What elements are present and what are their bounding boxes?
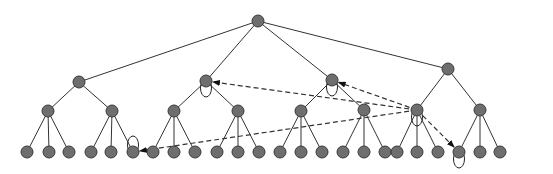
tree-node xyxy=(379,146,391,158)
tree-edge xyxy=(417,110,438,152)
tree-edge xyxy=(217,111,238,152)
tree-node xyxy=(391,146,403,158)
tree-edge xyxy=(343,110,364,152)
tree-node xyxy=(105,146,117,158)
tree-edge xyxy=(79,82,112,111)
tree-node xyxy=(168,146,180,158)
tree-node xyxy=(252,15,264,27)
tree-node xyxy=(147,146,159,158)
tree-node xyxy=(474,104,486,116)
tree-node xyxy=(253,146,265,158)
tree-node xyxy=(337,146,349,158)
tree-node xyxy=(411,146,423,158)
tree-edge xyxy=(448,69,480,110)
tree-node xyxy=(127,146,139,158)
tree-node xyxy=(232,105,244,117)
tree-edge xyxy=(301,111,322,152)
tree-node xyxy=(295,146,307,158)
tree-diagram xyxy=(0,0,553,174)
tree-nodes xyxy=(21,15,506,158)
tree-edge xyxy=(258,21,448,69)
tree-edge xyxy=(301,80,332,111)
tree-node xyxy=(358,146,370,158)
tree-edge xyxy=(397,110,417,152)
dashed-arrow xyxy=(140,110,417,151)
tree-node xyxy=(85,146,97,158)
tree-node xyxy=(453,146,465,158)
tree-node xyxy=(494,146,506,158)
tree-node xyxy=(168,105,180,117)
tree-edge xyxy=(417,69,448,110)
tree-node xyxy=(42,105,54,117)
tree-node xyxy=(211,146,223,158)
tree-node xyxy=(326,74,338,86)
dashed-arrow xyxy=(339,82,417,110)
tree-edge xyxy=(280,111,301,152)
tree-node xyxy=(442,63,454,75)
tree-node xyxy=(295,105,307,117)
dashed-links xyxy=(140,82,454,151)
tree-node xyxy=(411,104,423,116)
tree-edge xyxy=(238,111,259,152)
tree-node xyxy=(358,104,370,116)
tree-node xyxy=(274,146,286,158)
tree-edge xyxy=(91,111,112,152)
tree-edge xyxy=(48,111,69,152)
tree-node xyxy=(63,146,75,158)
tree-edge xyxy=(480,110,500,152)
dashed-arrow xyxy=(213,82,417,110)
tree-node xyxy=(189,146,201,158)
tree-node xyxy=(43,146,55,158)
tree-node xyxy=(21,146,33,158)
tree-edge xyxy=(27,111,48,152)
tree-node xyxy=(106,105,118,117)
tree-node xyxy=(232,146,244,158)
tree-node xyxy=(316,146,328,158)
tree-edge xyxy=(459,110,480,152)
tree-node xyxy=(432,146,444,158)
tree-node xyxy=(474,146,486,158)
tree-node xyxy=(200,75,212,87)
tree-edge xyxy=(112,111,133,152)
tree-node xyxy=(73,76,85,88)
